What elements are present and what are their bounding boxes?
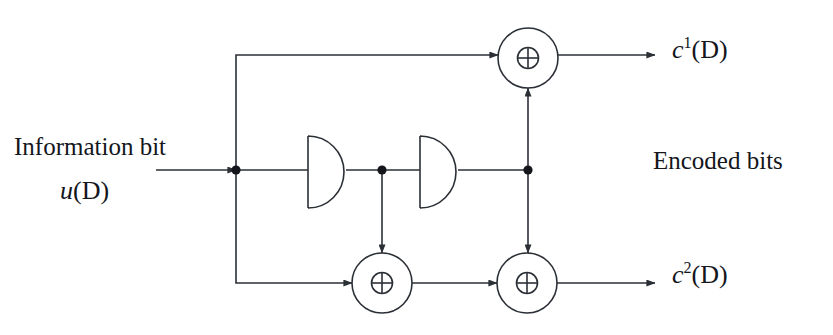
output-2-base: c <box>672 260 684 289</box>
xor-bottom-right-symbol <box>517 273 538 294</box>
output-1-arg: (D) <box>692 35 728 64</box>
label-encoded-bits: Encoded bits <box>653 148 783 173</box>
wire-input-branch-to-xor-top <box>236 55 498 170</box>
xor-top-symbol <box>518 48 539 69</box>
delay-element-1 <box>308 136 344 208</box>
output-2-superscript: 2 <box>684 259 692 276</box>
wire-input-branch-to-xor-bottom-left <box>236 170 352 283</box>
label-input-signal: u(D) <box>60 178 109 204</box>
label-output-2: c2(D) <box>672 262 728 288</box>
delay-element-2 <box>420 136 456 208</box>
label-information-bit: Information bit <box>14 134 166 159</box>
output-1-superscript: 1 <box>684 34 692 51</box>
input-signal-arg: (D) <box>73 176 109 205</box>
output-2-arg: (D) <box>692 260 728 289</box>
input-signal-base: u <box>60 176 73 205</box>
junction-dot-middle <box>377 165 386 174</box>
label-output-1: c1(D) <box>672 37 728 63</box>
output-1-base: c <box>672 35 684 64</box>
encoder-diagram-canvas: Information bit u(D) Encoded bits c1(D) … <box>0 0 833 335</box>
junction-dot-input <box>231 165 240 174</box>
junction-dot-right <box>523 165 532 174</box>
xor-bottom-left-symbol <box>372 273 393 294</box>
